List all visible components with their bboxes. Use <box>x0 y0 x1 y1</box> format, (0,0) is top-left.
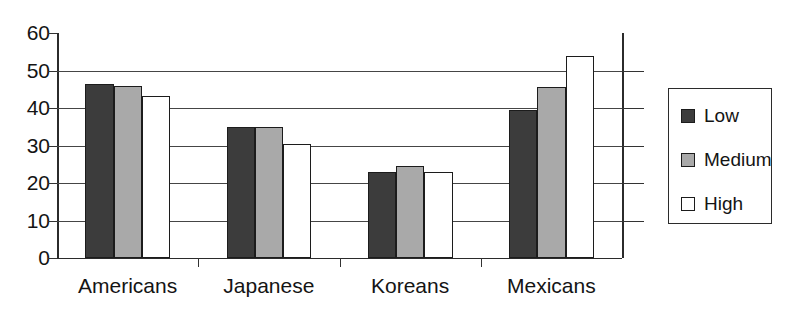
bar-group <box>368 33 453 258</box>
category-label: Americans <box>57 274 198 298</box>
plot-area <box>57 33 622 258</box>
bar <box>509 110 537 258</box>
y-tick-label: 50 <box>4 60 50 81</box>
legend-item-high[interactable]: High <box>681 194 743 214</box>
y-tick-label: 40 <box>4 97 50 118</box>
y-axis-tick-right <box>622 221 644 222</box>
y-axis-tick <box>48 71 57 72</box>
x-axis-category-labels: AmericansJapaneseKoreansMexicans <box>57 274 622 304</box>
y-axis-tick <box>48 258 57 259</box>
category-separator-tick <box>340 258 341 267</box>
category-separator-tick <box>198 258 199 267</box>
legend-item-medium[interactable]: Medium <box>681 150 772 170</box>
legend-label: Low <box>704 106 739 126</box>
y-tick-label: 10 <box>4 210 50 231</box>
y-axis-tick <box>48 221 57 222</box>
bar-group <box>509 33 594 258</box>
y-tick-label: 20 <box>4 172 50 193</box>
y-tick-label: 60 <box>4 22 50 43</box>
bar <box>368 172 396 258</box>
bar <box>114 86 142 259</box>
category-separator-tick <box>481 258 482 267</box>
bar-chart-figure: 0102030405060 AmericansJapaneseKoreansMe… <box>0 0 798 318</box>
chart-legend: LowMediumHigh <box>668 88 772 224</box>
bar <box>566 56 594 259</box>
y-axis-tick <box>48 33 57 34</box>
y-tick-label: 0 <box>4 247 50 268</box>
legend-swatch-icon <box>681 197 695 211</box>
y-tick-label: 30 <box>4 135 50 156</box>
bar <box>424 172 452 258</box>
bar <box>142 96 170 258</box>
category-label: Japanese <box>198 274 339 298</box>
legend-item-low[interactable]: Low <box>681 106 739 126</box>
bar <box>396 166 424 258</box>
bar <box>255 127 283 258</box>
y-axis-tick-right <box>622 108 644 109</box>
legend-label: Medium <box>704 150 772 170</box>
bar <box>85 84 113 258</box>
bar-group <box>85 33 170 258</box>
bar <box>227 127 255 258</box>
y-axis-tick-right <box>622 183 644 184</box>
y-axis-tick-right <box>622 146 644 147</box>
y-axis-tick-labels: 0102030405060 <box>0 0 50 318</box>
y-axis-tick <box>48 183 57 184</box>
legend-swatch-icon <box>681 109 695 123</box>
y-axis-tick-right <box>622 71 644 72</box>
bar-group <box>227 33 312 258</box>
legend-swatch-icon <box>681 153 695 167</box>
bar <box>537 87 565 258</box>
legend-label: High <box>704 194 743 214</box>
y-axis-tick <box>48 108 57 109</box>
category-label: Koreans <box>340 274 481 298</box>
category-label: Mexicans <box>481 274 622 298</box>
bar <box>283 144 311 258</box>
y-axis-tick <box>48 146 57 147</box>
